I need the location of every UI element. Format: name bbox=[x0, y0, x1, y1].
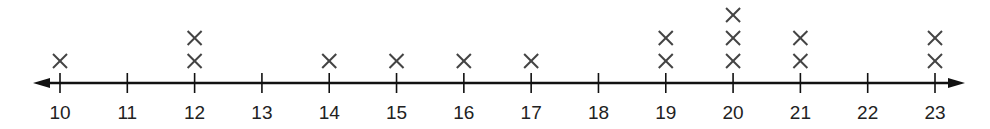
arrow-left-icon bbox=[33, 78, 50, 88]
tick-label: 13 bbox=[251, 102, 272, 123]
x-marker-icon bbox=[793, 54, 807, 68]
tick-label: 14 bbox=[319, 102, 341, 123]
x-marker-icon bbox=[188, 31, 202, 45]
x-marker-icon bbox=[928, 31, 942, 45]
tick-label: 12 bbox=[184, 102, 205, 123]
number-line-axis bbox=[33, 78, 965, 88]
arrow-right-icon bbox=[948, 78, 965, 88]
x-marker-icon bbox=[928, 54, 942, 68]
x-marker-icon bbox=[524, 54, 538, 68]
tick-label: 18 bbox=[588, 102, 609, 123]
x-marker-icon bbox=[726, 8, 740, 22]
x-marker-icon bbox=[53, 54, 67, 68]
x-markers bbox=[53, 8, 942, 68]
tick-label: 23 bbox=[924, 102, 945, 123]
tick-label: 22 bbox=[857, 102, 878, 123]
tick-label: 19 bbox=[655, 102, 676, 123]
x-marker-icon bbox=[659, 54, 673, 68]
x-marker-icon bbox=[726, 31, 740, 45]
tick-label: 16 bbox=[453, 102, 474, 123]
x-marker-icon bbox=[322, 54, 336, 68]
x-marker-icon bbox=[457, 54, 471, 68]
x-marker-icon bbox=[726, 54, 740, 68]
tick-label: 17 bbox=[521, 102, 542, 123]
x-marker-icon bbox=[793, 31, 807, 45]
x-marker-icon bbox=[390, 54, 404, 68]
tick-label: 21 bbox=[790, 102, 811, 123]
line-plot: 1011121314151617181920212223 bbox=[0, 0, 990, 129]
tick-label: 15 bbox=[386, 102, 407, 123]
tick-label: 10 bbox=[49, 102, 70, 123]
tick-label: 11 bbox=[117, 102, 137, 123]
x-marker-icon bbox=[659, 31, 673, 45]
tick-label: 20 bbox=[723, 102, 744, 123]
x-marker-icon bbox=[188, 54, 202, 68]
tick-labels: 1011121314151617181920212223 bbox=[49, 102, 945, 123]
